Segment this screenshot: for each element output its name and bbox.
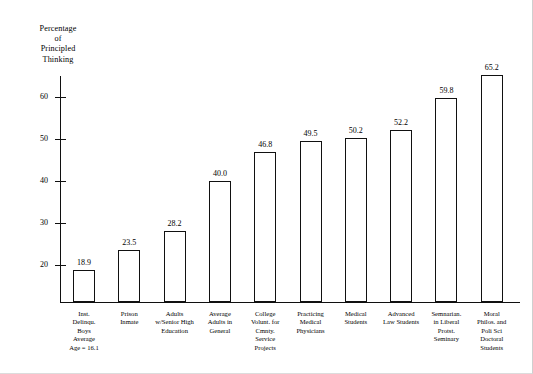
- bar-value-label: 50.2: [336, 127, 376, 135]
- category-label-line: Projects: [241, 344, 289, 352]
- bar-value-label: 65.2: [472, 64, 512, 72]
- bar-value-label: 46.8: [245, 141, 285, 149]
- y-tick-40: [55, 181, 66, 182]
- category-label-line: General: [196, 327, 244, 335]
- category-label-line: Average: [196, 310, 244, 318]
- category-label-line: Philos. and: [468, 318, 516, 326]
- category-label-line: Medical: [332, 310, 380, 318]
- category-label-line: Students: [332, 318, 380, 326]
- category-label-line: w/Senior High: [151, 318, 199, 326]
- category-label-line: Physicians: [287, 327, 335, 335]
- category-label: Inst.Delinqu.BoysAverageAge = 16.1: [60, 310, 108, 352]
- bar-value-label: 23.5: [109, 239, 149, 247]
- category-label-line: Seminary: [422, 335, 470, 343]
- y-tick-label-40: 40: [22, 177, 48, 185]
- bar[interactable]: [164, 231, 186, 302]
- bar[interactable]: [481, 75, 503, 302]
- bar-value-label: 49.5: [291, 130, 331, 138]
- bar[interactable]: [209, 181, 231, 302]
- bar-value-label: 40.0: [200, 170, 240, 178]
- bar-value-label: 52.2: [381, 119, 421, 127]
- bar[interactable]: [118, 250, 140, 302]
- bar[interactable]: [345, 138, 367, 302]
- category-label-line: Service: [241, 335, 289, 343]
- plot-area: 2030405060 18.923.528.240.046.849.550.25…: [0, 0, 533, 374]
- bar-value-label: 59.8: [426, 87, 466, 95]
- y-tick-label-60: 60: [22, 93, 48, 101]
- category-label-line: in Liberal: [422, 318, 470, 326]
- category-label: CollegeVolunt. forCmnty.ServiceProjects: [241, 310, 289, 352]
- bar[interactable]: [73, 270, 95, 302]
- y-tick-label-20: 20: [22, 261, 48, 269]
- y-tick-60: [55, 97, 66, 98]
- category-label-line: Prison: [105, 310, 153, 318]
- y-tick-label-30: 30: [22, 219, 48, 227]
- bar-value-label: 18.9: [64, 259, 104, 267]
- chart-figure: Percentage of Principled Thinking 203040…: [0, 0, 533, 374]
- category-label-line: Semnarian.: [422, 310, 470, 318]
- category-label-line: Volunt. for: [241, 318, 289, 326]
- category-label-line: Adults in: [196, 318, 244, 326]
- category-label-line: Delinqu.: [60, 318, 108, 326]
- category-label-line: Cmnty.: [241, 327, 289, 335]
- y-axis-line: [60, 76, 61, 303]
- category-label: Semnarian.in LiberalProtst.Seminary: [422, 310, 470, 344]
- category-label-line: Law Students: [377, 318, 425, 326]
- category-label-line: Doctoral: [468, 335, 516, 343]
- category-label-line: Practicing: [287, 310, 335, 318]
- category-label: PrisonInmate: [105, 310, 153, 327]
- category-label-line: Medical: [287, 318, 335, 326]
- bar-value-label: 28.2: [155, 220, 195, 228]
- category-label-line: Advanced: [377, 310, 425, 318]
- category-label-line: Moral: [468, 310, 516, 318]
- category-label: Adultsw/Senior HighEducation: [151, 310, 199, 335]
- category-label: PracticingMedicalPhysicians: [287, 310, 335, 335]
- category-label-line: Average: [60, 335, 108, 343]
- bar[interactable]: [390, 130, 412, 302]
- category-label-line: Poli Sci: [468, 327, 516, 335]
- category-label: MedicalStudents: [332, 310, 380, 327]
- y-tick-label-50: 50: [22, 135, 48, 143]
- category-label-line: Inst.: [60, 310, 108, 318]
- x-axis-line: [60, 302, 520, 303]
- category-label-line: College: [241, 310, 289, 318]
- bar[interactable]: [254, 152, 276, 302]
- category-label-line: Boys: [60, 327, 108, 335]
- bar[interactable]: [435, 98, 457, 302]
- category-label-line: Protst.: [422, 327, 470, 335]
- y-tick-30: [55, 223, 66, 224]
- category-label-line: Students: [468, 344, 516, 352]
- category-label: AdvancedLaw Students: [377, 310, 425, 327]
- category-label: AverageAdults inGeneral: [196, 310, 244, 335]
- category-label-line: Education: [151, 327, 199, 335]
- category-label: MoralPhilos. andPoli SciDoctoralStudents: [468, 310, 516, 352]
- category-label-line: Adults: [151, 310, 199, 318]
- bar[interactable]: [300, 141, 322, 302]
- category-label-line: Age = 16.1: [60, 344, 108, 352]
- y-tick-50: [55, 139, 66, 140]
- category-label-line: Inmate: [105, 318, 153, 326]
